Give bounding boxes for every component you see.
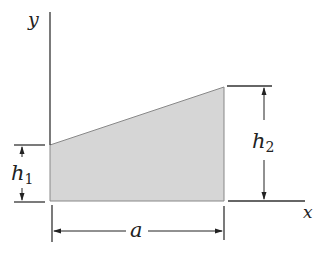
- trapezoid-diagram: y x h1 h2 a: [0, 0, 323, 256]
- h2-label: h2: [252, 129, 274, 155]
- shaded-area: [50, 87, 224, 201]
- h1-label: h1: [11, 161, 33, 187]
- y-axis-label: y: [27, 8, 39, 30]
- a-label: a: [130, 218, 143, 242]
- x-axis-label: x: [303, 202, 313, 222]
